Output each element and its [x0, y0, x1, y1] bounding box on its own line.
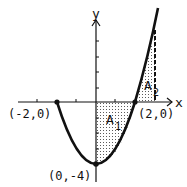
label-0-neg4: (0,-4)	[48, 169, 91, 183]
label-2-0: (2,0)	[138, 107, 174, 121]
point-neg2-0	[54, 99, 59, 104]
region-a1-label: A	[106, 112, 114, 127]
point-0-neg4	[93, 161, 99, 167]
region-a1-shading	[96, 102, 135, 164]
y-axis-label: y	[92, 6, 100, 21]
region-a2-subscript: 2	[153, 87, 159, 98]
region-a2-label: A	[144, 78, 152, 93]
region-a1-subscript: 1	[115, 121, 121, 132]
area-diagram: y x (-2,0) (2,0) (0,-4) A 1 A 2	[0, 0, 187, 187]
x-axis-label: x	[175, 95, 183, 110]
point-2-0	[132, 99, 137, 104]
label-neg2-0: (-2,0)	[8, 107, 51, 121]
